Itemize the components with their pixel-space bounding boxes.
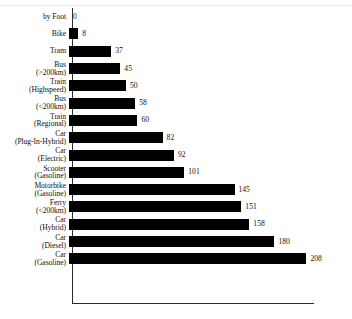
bar [69, 219, 249, 230]
bar-row: Train (Highspeed)50 [0, 77, 352, 94]
bar [69, 253, 306, 264]
bar-category-label: Bus (<200km) [0, 95, 69, 111]
x-axis-line [72, 303, 314, 304]
bar-value-label: 8 [78, 30, 86, 38]
bar-row: Car (Plug-In-Hybrid)82 [0, 129, 352, 146]
bar [69, 80, 126, 91]
bar-category-label: Bus (>200km) [0, 61, 69, 77]
bar-track: 208 [69, 250, 352, 267]
bar-row: Tram37 [0, 43, 352, 60]
bar-row: Motorbike (Gasoline)145 [0, 181, 352, 198]
bar-row: Car (Diesel)180 [0, 233, 352, 250]
bar-category-label: Train (Highspeed) [0, 78, 69, 94]
bar-value-label: 145 [235, 186, 250, 194]
bar-row: Car (Hybrid)158 [0, 216, 352, 233]
bar-category-label: Ferry (<200km) [0, 199, 69, 215]
bar-track: 92 [69, 146, 352, 163]
bar-track: 145 [69, 181, 352, 198]
bar [69, 132, 163, 143]
bar-row: Train (Regional)60 [0, 112, 352, 129]
bar-value-label: 158 [249, 220, 264, 228]
bar-value-label: 45 [120, 65, 132, 73]
bar-track: 45 [69, 60, 352, 77]
bar-row: Bus (>200km)45 [0, 60, 352, 77]
bar-row: Bus (<200km)58 [0, 94, 352, 111]
bar-value-label: 37 [111, 47, 123, 55]
bar-track: 101 [69, 164, 352, 181]
bar-row: Car (Gasoline)208 [0, 250, 352, 267]
bar-value-label: 208 [306, 255, 321, 263]
bar-track: 8 [69, 25, 352, 42]
bar-row: Car (Electric)92 [0, 146, 352, 163]
bar [69, 28, 78, 39]
bar [69, 98, 135, 109]
bar-track: 50 [69, 77, 352, 94]
bar-track: 37 [69, 43, 352, 60]
bar [69, 150, 174, 161]
bar-row: Scooter (Gasoline)101 [0, 164, 352, 181]
bar-value-label: 58 [135, 99, 147, 107]
bar-value-label: 0 [69, 13, 77, 21]
bar-category-label: Car (Hybrid) [0, 216, 69, 232]
bar-category-label: Bike [0, 30, 69, 38]
bar-value-label: 151 [241, 203, 256, 211]
bar [69, 46, 111, 57]
bar-row: Bike8 [0, 25, 352, 42]
bar-category-label: Car (Gasoline) [0, 251, 69, 267]
bar-category-label: Car (Plug-In-Hybrid) [0, 130, 69, 146]
bar-category-label: Train (Regional) [0, 113, 69, 129]
bar-row: Ferry (<200km)151 [0, 198, 352, 215]
bar-chart: by Foot0Bike8Tram37Bus (>200km)45Train (… [0, 0, 352, 319]
bar-track: 60 [69, 112, 352, 129]
bar [69, 184, 235, 195]
bar-track: 82 [69, 129, 352, 146]
bar [69, 167, 184, 178]
bar-rows: by Foot0Bike8Tram37Bus (>200km)45Train (… [0, 8, 352, 267]
bar-track: 58 [69, 94, 352, 111]
figure-top-border [0, 5, 352, 6]
bar-track: 180 [69, 233, 352, 250]
bar-category-label: by Foot [0, 13, 69, 21]
bar-value-label: 82 [163, 134, 175, 142]
bar-value-label: 180 [274, 238, 289, 246]
bar-row: by Foot0 [0, 8, 352, 25]
bar-category-label: Motorbike (Gasoline) [0, 182, 69, 198]
bar [69, 201, 241, 212]
bar-category-label: Scooter (Gasoline) [0, 165, 69, 181]
bar-category-label: Tram [0, 47, 69, 55]
bar [69, 236, 274, 247]
bar-track: 158 [69, 216, 352, 233]
bar [69, 115, 137, 126]
bar-category-label: Car (Electric) [0, 147, 69, 163]
bar-value-label: 60 [137, 116, 149, 124]
bar-value-label: 101 [184, 168, 199, 176]
bar-category-label: Car (Diesel) [0, 234, 69, 250]
bar-value-label: 92 [174, 151, 186, 159]
bar-value-label: 50 [126, 82, 138, 90]
bar-track: 0 [69, 8, 352, 25]
bar-track: 151 [69, 198, 352, 215]
bar [69, 63, 120, 74]
plot-area: by Foot0Bike8Tram37Bus (>200km)45Train (… [0, 8, 352, 304]
